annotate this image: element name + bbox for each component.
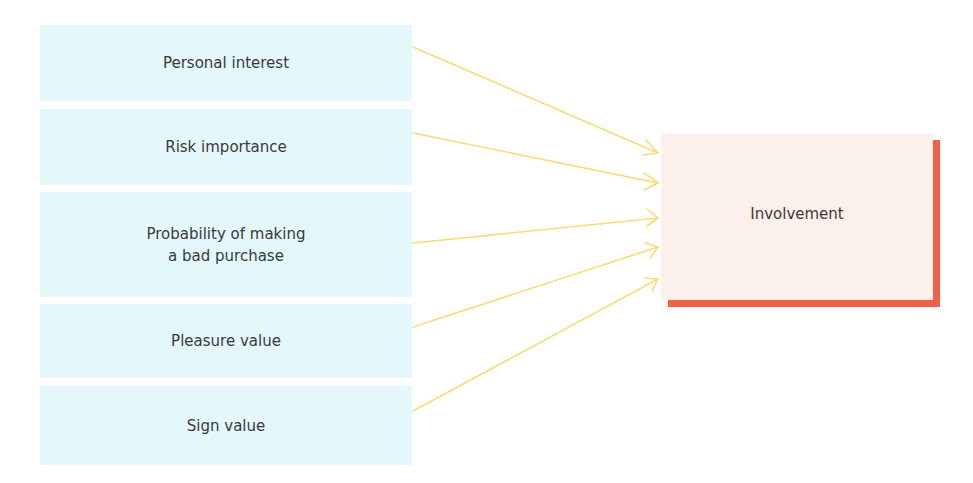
arrow-icon [413, 209, 658, 243]
arrow-icon [413, 47, 658, 155]
arrow-icon [413, 243, 658, 327]
arrow-icon [413, 278, 658, 411]
arrows-layer [0, 0, 973, 483]
arrow-icon [413, 133, 658, 190]
